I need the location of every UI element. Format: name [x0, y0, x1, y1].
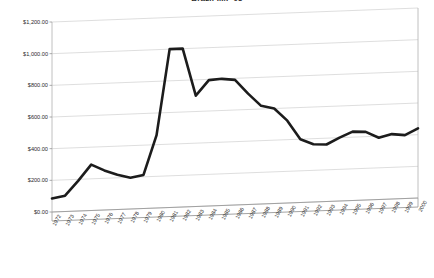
x-axis-tick-label: 1979 — [142, 210, 153, 223]
x-axis-tick-label: 1997 — [377, 201, 388, 214]
x-axis-tick-label: 1993 — [325, 203, 336, 216]
x-axis-tick-label: 1974 — [77, 212, 88, 225]
chart-container: Brazil IMF 05 $1,200.00$1,000.00$800.00$… — [0, 0, 434, 278]
x-axis-tick-label: 1981 — [168, 209, 179, 222]
x-axis-tick-label: 1994 — [338, 202, 349, 215]
x-axis-tick-label: 1972 — [51, 213, 62, 226]
x-axis-tick-label: 1973 — [64, 213, 75, 226]
x-axis-tick-label: 1986 — [234, 206, 245, 219]
x-axis-tick-label: 1991 — [299, 204, 310, 217]
x-axis-tick-label: 1980 — [155, 209, 166, 222]
x-axis-tick-label: 1976 — [103, 211, 114, 224]
x-axis: 1972197319741975197619771978197919801981… — [0, 0, 434, 278]
x-axis-tick-label: 2000 — [417, 199, 428, 212]
x-axis-tick-label: 1998 — [390, 200, 401, 213]
x-axis-tick-label: 1999 — [403, 200, 414, 213]
x-axis-tick-label: 1983 — [194, 208, 205, 221]
x-axis-tick-label: 1975 — [90, 212, 101, 225]
x-axis-tick-label: 1995 — [351, 202, 362, 215]
x-axis-tick-label: 1990 — [286, 204, 297, 217]
x-axis-tick-label: 1977 — [116, 211, 127, 224]
x-axis-tick-label: 1984 — [207, 207, 218, 220]
x-axis-tick-label: 1987 — [247, 206, 258, 219]
x-axis-tick-label: 1988 — [260, 205, 271, 218]
x-axis-tick-label: 1992 — [312, 203, 323, 216]
x-axis-tick-label: 1996 — [364, 201, 375, 214]
x-axis-tick-label: 1985 — [220, 207, 231, 220]
x-axis-tick-label: 1989 — [273, 205, 284, 218]
x-axis-tick-label: 1982 — [181, 208, 192, 221]
x-axis-tick-label: 1978 — [129, 210, 140, 223]
